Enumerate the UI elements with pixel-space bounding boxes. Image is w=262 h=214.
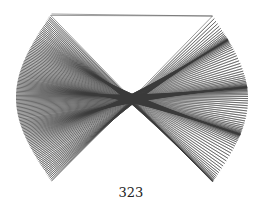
string-art-figure xyxy=(0,0,262,190)
pattern-path xyxy=(16,14,248,182)
figure-caption: 323 xyxy=(0,185,262,200)
line-pattern xyxy=(16,14,248,182)
